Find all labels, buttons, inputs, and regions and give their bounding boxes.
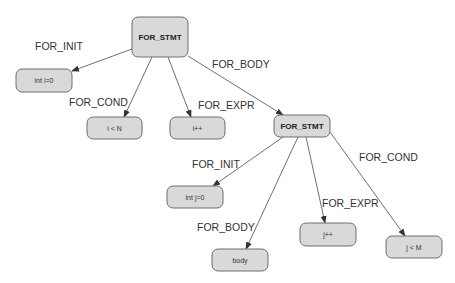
edge-label: FOR_COND (359, 151, 418, 163)
node-expr2: j++ (300, 223, 356, 246)
edge-label: FOR_INIT (192, 158, 240, 170)
node-label: FOR_STMT (138, 33, 181, 42)
node-for2: FOR_STMT (274, 115, 330, 137)
edge-for1-init1: FOR_INIT (35, 40, 132, 71)
edge-label: FOR_INIT (35, 40, 83, 52)
edge-for1-cond1: FOR_COND (69, 57, 152, 117)
node-expr1: i++ (170, 117, 225, 139)
node-label: int j=0 (186, 194, 205, 202)
node-label: j < M (405, 244, 422, 252)
edges-layer: FOR_INITFOR_CONDFOR_EXPRFOR_BODYFOR_INIT… (35, 40, 418, 249)
edge-label: FOR_BODY (197, 221, 255, 233)
edge-for2-cond2: FOR_COND (330, 132, 418, 236)
node-for1: FOR_STMT (132, 17, 188, 57)
edge-arrow (168, 57, 191, 117)
node-label: body (232, 257, 248, 265)
edge-arrow (306, 137, 325, 223)
node-cond2: j < M (386, 236, 442, 258)
node-body2: body (212, 249, 268, 271)
node-label: i < N (107, 125, 122, 132)
ast-diagram: FOR_INITFOR_CONDFOR_EXPRFOR_BODYFOR_INIT… (0, 0, 455, 283)
node-init2: int j=0 (167, 186, 223, 208)
node-cond1: i < N (87, 117, 142, 139)
node-init1: int i=0 (16, 69, 72, 92)
edge-label: FOR_BODY (212, 58, 270, 70)
node-label: j++ (322, 231, 333, 239)
edge-for2-init2: FOR_INIT (192, 137, 283, 186)
node-label: i++ (193, 125, 203, 132)
edge-arrow (124, 57, 152, 117)
edge-arrow (72, 49, 132, 71)
edge-label: FOR_EXPR (198, 99, 255, 111)
edge-label: FOR_COND (69, 96, 128, 108)
node-label: FOR_STMT (280, 122, 323, 131)
edge-arrow (330, 132, 405, 236)
node-label: int i=0 (35, 77, 54, 84)
edge-label: FOR_EXPR (322, 197, 379, 209)
